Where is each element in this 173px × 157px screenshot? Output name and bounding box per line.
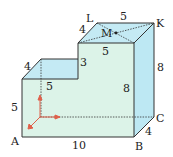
solid-figure: A B C K L M 10 4 8 8 5 4 5 3 4 5 5 [0,0,173,157]
label-a: A [10,135,20,148]
dim-top-front: 5 [102,45,109,58]
dim-bc: 4 [145,125,152,138]
dim-right-height: 8 [157,61,164,74]
dim-ab: 10 [72,139,86,152]
label-k: K [156,17,165,30]
dim-left-depth: 4 [24,60,31,73]
dim-l-depth: 4 [79,23,86,36]
label-b: B [135,140,143,153]
dim-inner-height: 8 [123,82,130,95]
diagram-canvas: A B C K L M 10 4 8 8 5 4 5 3 4 5 5 [0,0,173,157]
label-m: M [101,27,112,40]
point-m [115,32,118,35]
label-l: L [86,12,94,25]
label-c: C [156,112,164,125]
dim-lk: 5 [120,10,127,23]
dim-step: 3 [80,56,87,69]
dim-left-height: 5 [11,101,18,114]
dim-left-top: 5 [46,80,53,93]
